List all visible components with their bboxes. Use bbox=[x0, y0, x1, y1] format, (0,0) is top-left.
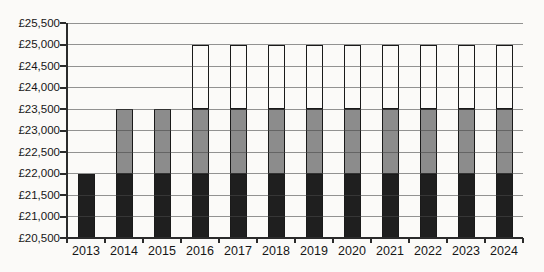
y-axis-tick-21500 bbox=[60, 194, 66, 196]
bar-2017-band-grey bbox=[230, 109, 247, 174]
x-axis-tick-7 bbox=[332, 238, 334, 243]
y-axis-label-23500: £23,500 bbox=[0, 103, 60, 116]
bar-2015-band-grey bbox=[154, 109, 171, 174]
x-axis-label-2014: 2014 bbox=[105, 244, 143, 258]
y-axis-label-25500: £25,500 bbox=[0, 17, 60, 30]
bar-2021-band-black bbox=[382, 174, 399, 239]
y-axis-label-22000: £22,000 bbox=[0, 167, 60, 180]
x-axis-label-2023: 2023 bbox=[447, 244, 485, 258]
y-axis-tick-23500 bbox=[60, 108, 66, 110]
gridline-24500 bbox=[67, 66, 523, 67]
y-axis-label-21000: £21,000 bbox=[0, 210, 60, 223]
y-axis-label-22500: £22,500 bbox=[0, 146, 60, 159]
x-axis-label-2019: 2019 bbox=[295, 244, 333, 258]
x-axis-label-2016: 2016 bbox=[181, 244, 219, 258]
x-axis-label-2024: 2024 bbox=[485, 244, 523, 258]
x-axis-label-2015: 2015 bbox=[143, 244, 181, 258]
bar-2014-band-grey bbox=[116, 109, 133, 174]
y-axis-label-24000: £24,000 bbox=[0, 81, 60, 94]
bar-2016-band-grey bbox=[192, 109, 209, 174]
gridline-21000 bbox=[67, 216, 523, 217]
x-axis-label-2018: 2018 bbox=[257, 244, 295, 258]
bar-2018-band-white bbox=[268, 45, 285, 110]
y-axis-tick-22000 bbox=[60, 173, 66, 175]
stacked-bar-chart: £20,500£21,000£21,500£22,000£22,500£23,0… bbox=[0, 0, 544, 272]
bar-2014-band-black bbox=[116, 174, 133, 239]
y-axis-tick-24000 bbox=[60, 87, 66, 89]
bar-2019-band-grey bbox=[306, 109, 323, 174]
gridline-23000 bbox=[67, 130, 523, 131]
gridline-21500 bbox=[67, 195, 523, 196]
y-axis-tick-25000 bbox=[60, 44, 66, 46]
gridline-22000 bbox=[67, 173, 523, 174]
x-axis-tick-1 bbox=[104, 238, 106, 243]
y-axis-label-23000: £23,000 bbox=[0, 124, 60, 137]
y-axis-label-25000: £25,000 bbox=[0, 38, 60, 51]
x-axis-tick-5 bbox=[256, 238, 258, 243]
bar-2023-band-white bbox=[458, 45, 475, 110]
bar-2023-band-black bbox=[458, 174, 475, 239]
plot-area: £20,500£21,000£21,500£22,000£22,500£23,0… bbox=[67, 23, 523, 238]
bar-2022-band-grey bbox=[420, 109, 437, 174]
bar-2016-band-black bbox=[192, 174, 209, 239]
bar-2023-band-grey bbox=[458, 109, 475, 174]
bar-2021-band-white bbox=[382, 45, 399, 110]
x-axis-tick-4 bbox=[218, 238, 220, 243]
y-axis-tick-23000 bbox=[60, 130, 66, 132]
x-axis-tick-2 bbox=[142, 238, 144, 243]
bar-2018-band-black bbox=[268, 174, 285, 239]
gridline-23500 bbox=[67, 109, 523, 110]
bar-2013-band-black bbox=[78, 174, 95, 239]
y-axis-label-21500: £21,500 bbox=[0, 189, 60, 202]
y-axis-tick-24500 bbox=[60, 65, 66, 67]
x-axis-tick-10 bbox=[446, 238, 448, 243]
x-axis-label-2020: 2020 bbox=[333, 244, 371, 258]
bar-2017-band-black bbox=[230, 174, 247, 239]
bar-2024-band-white bbox=[496, 45, 513, 110]
bar-2022-band-black bbox=[420, 174, 437, 239]
bar-2018-band-grey bbox=[268, 109, 285, 174]
y-axis-tick-25500 bbox=[60, 22, 66, 24]
bar-2020-band-white bbox=[344, 45, 361, 110]
bar-2021-band-grey bbox=[382, 109, 399, 174]
bar-2024-band-black bbox=[496, 174, 513, 239]
y-axis-tick-21000 bbox=[60, 216, 66, 218]
x-axis-tick-0 bbox=[66, 238, 68, 243]
x-axis-label-2022: 2022 bbox=[409, 244, 447, 258]
bar-2020-band-black bbox=[344, 174, 361, 239]
x-axis-tick-12 bbox=[522, 238, 524, 243]
y-axis-line bbox=[66, 23, 68, 238]
gridline-25000 bbox=[67, 44, 523, 45]
bar-2022-band-white bbox=[420, 45, 437, 110]
x-axis-tick-3 bbox=[180, 238, 182, 243]
bar-2024-band-grey bbox=[496, 109, 513, 174]
x-axis-tick-9 bbox=[408, 238, 410, 243]
x-axis-tick-11 bbox=[484, 238, 486, 243]
bar-2019-band-white bbox=[306, 45, 323, 110]
x-axis-label-2017: 2017 bbox=[219, 244, 257, 258]
y-axis-label-24500: £24,500 bbox=[0, 60, 60, 73]
bar-2015-band-black bbox=[154, 174, 171, 239]
y-axis-label-20500: £20,500 bbox=[0, 232, 60, 245]
y-axis-tick-22500 bbox=[60, 151, 66, 153]
x-axis-label-2013: 2013 bbox=[67, 244, 105, 258]
bar-2019-band-black bbox=[306, 174, 323, 239]
x-axis-tick-6 bbox=[294, 238, 296, 243]
gridline-24000 bbox=[67, 87, 523, 88]
bar-2017-band-white bbox=[230, 45, 247, 110]
gridline-25500 bbox=[67, 23, 523, 24]
gridline-22500 bbox=[67, 152, 523, 153]
bar-2016-band-white bbox=[192, 45, 209, 110]
x-axis-label-2021: 2021 bbox=[371, 244, 409, 258]
bar-2020-band-grey bbox=[344, 109, 361, 174]
x-axis-tick-8 bbox=[370, 238, 372, 243]
